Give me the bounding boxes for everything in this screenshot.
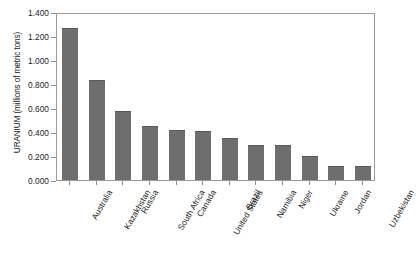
x-axis-tick-mark <box>362 181 363 185</box>
x-axis-tick-mark <box>176 181 177 185</box>
x-axis-tick-mark <box>282 181 283 185</box>
bar <box>115 111 131 180</box>
bar <box>302 156 318 180</box>
x-axis-labels: AustraliaKazakhstanRussiaSouth AfricaCan… <box>56 188 375 258</box>
y-axis-tick-label: 0.200 <box>28 151 49 163</box>
x-axis-tick-mark <box>255 181 256 185</box>
y-axis-tick-label: 0.400 <box>28 127 49 139</box>
x-axis-category-label: Ukraine <box>327 188 350 218</box>
plot-area <box>56 13 375 181</box>
x-axis-tick-mark <box>309 181 310 185</box>
bar <box>222 138 238 180</box>
bar <box>248 145 264 180</box>
bar <box>355 166 371 180</box>
bar <box>169 130 185 180</box>
x-axis-tick-mark <box>335 181 336 185</box>
x-axis-category-label: Uzbekistan <box>386 188 415 229</box>
x-axis-category-label: Jordan <box>352 188 373 215</box>
y-axis-tick-label: 1.400 <box>28 7 49 19</box>
y-axis-tick-label: 1.200 <box>28 31 49 43</box>
x-axis-tick-mark <box>149 181 150 185</box>
y-axis-tick-label: 0.600 <box>28 103 49 115</box>
bar <box>62 28 78 180</box>
x-axis-ticks <box>56 181 375 187</box>
y-axis-tick-label: 0.800 <box>28 79 49 91</box>
bar <box>275 145 291 180</box>
x-axis-tick-mark <box>96 181 97 185</box>
x-axis-tick-mark <box>122 181 123 185</box>
x-axis-tick-mark <box>202 181 203 185</box>
y-axis-tick-label: 1.000 <box>28 55 49 67</box>
bar <box>328 166 344 180</box>
y-axis-tick-label: 0.000 <box>28 175 49 187</box>
x-axis-category-label: Niger <box>296 188 315 210</box>
x-axis-tick-mark <box>229 181 230 185</box>
bar <box>142 126 158 180</box>
bars-layer <box>57 14 374 180</box>
y-axis-ticks: 1.4001.2001.0000.8000.6000.4000.2000.000 <box>0 0 56 194</box>
x-axis-category-label: Australia <box>90 188 115 221</box>
x-axis-tick-mark <box>69 181 70 185</box>
bar <box>89 80 105 180</box>
bar <box>195 131 211 180</box>
x-axis-category-label: Namibia <box>275 188 299 220</box>
